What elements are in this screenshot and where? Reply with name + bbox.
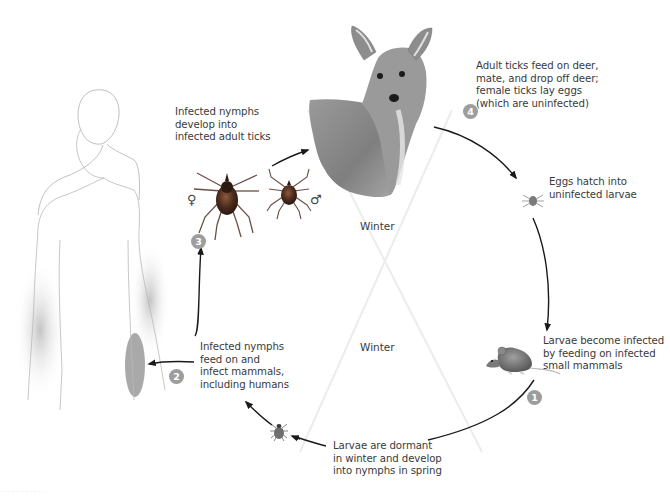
stage-2-badge: 2 (169, 369, 184, 384)
male-adult-tick (267, 169, 311, 219)
stage-1-badge: 1 (527, 390, 542, 405)
stage-3-badge: 3 (191, 234, 206, 249)
stage-2-description: Infected nymphs feed on and infect mamma… (200, 341, 289, 391)
female-adult-tick (194, 173, 259, 240)
eggs-hatch-description: Eggs hatch into uninfected larvae (549, 176, 637, 201)
larva-tick (522, 195, 544, 207)
male-symbol: ♂ (310, 192, 322, 207)
deer-illustration (309, 26, 432, 197)
nymph-tick (270, 424, 288, 441)
stage-4-description: Adult ticks feed on deer, mate, and drop… (476, 60, 599, 110)
larvae-dormant-description: Larvae are dormant in winter and develop… (333, 440, 442, 478)
winter-label-top: Winter (360, 220, 395, 232)
stage-3-description: Infected nymphs develop into infected ad… (175, 106, 271, 144)
winter-label-bottom: Winter (360, 341, 395, 353)
figure-credit: · · · ·· ·· ·· ·· · ·· · · (2, 488, 43, 494)
stage-1-description: Larvae become infected by feeding on inf… (543, 335, 664, 373)
human-figure (15, 90, 170, 410)
stage-4-badge: 4 (463, 104, 478, 119)
lyme-tick-life-cycle-diagram: Adult ticks feed on deer, mate, and drop… (0, 0, 670, 500)
female-symbol: ♀ (187, 192, 197, 207)
